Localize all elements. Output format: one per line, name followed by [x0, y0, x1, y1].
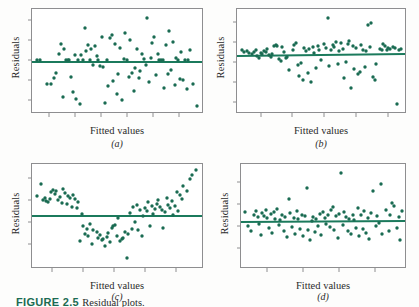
panel-c-xlabel: Fitted values [57, 280, 177, 291]
panel-a-ylabel: Residuals [10, 28, 21, 88]
panel-b-yticks [233, 22, 237, 102]
panel-c-scatter-svg [32, 164, 202, 267]
panel-b-scatter-svg [237, 9, 405, 112]
panel-d-xticks [267, 267, 375, 272]
panel-b-plot-area [236, 8, 406, 113]
panel-d-ylabel: Residuals [219, 184, 230, 244]
panel-a-xlabel: Fitted values [57, 125, 177, 136]
panel-d-sublabel: (d) [293, 291, 353, 302]
panel-b-sublabel: (b) [291, 138, 351, 149]
panel-a-scatter-svg [32, 9, 202, 112]
panel-c-ylabel: Residuals [10, 184, 21, 244]
panel-a-yticks [28, 20, 32, 100]
panel-a-xticks [49, 112, 179, 117]
panel-c-yticks [28, 178, 32, 244]
panel-d-xlabel: Fitted values [263, 280, 383, 291]
panel-b-xticks [261, 112, 388, 117]
panel-d-points [243, 171, 403, 241]
panel-a-sublabel: (a) [87, 138, 147, 149]
figure-caption-label: FIGURE 2.5 [16, 296, 79, 307]
panel-d-zero-line [241, 221, 405, 222]
panel-d-yticks [237, 182, 241, 248]
figure-caption: FIGURE 2.5 Residual plots. [16, 296, 145, 307]
panel-b-xlabel: Fitted values [261, 125, 381, 136]
panel-b-ylabel: Residuals [215, 28, 226, 88]
panel-d-plot-area [240, 163, 406, 268]
panel-a-plot-area [31, 8, 203, 113]
panel-c-xticks [52, 267, 176, 272]
panel-b-points [240, 16, 402, 105]
panel-c-plot-area [31, 163, 203, 268]
figure-page: Residuals [0, 0, 419, 307]
panel-c-points [35, 168, 197, 259]
figure-caption-body: Residual plots. [82, 297, 144, 307]
panel-d-scatter-svg [241, 164, 405, 267]
